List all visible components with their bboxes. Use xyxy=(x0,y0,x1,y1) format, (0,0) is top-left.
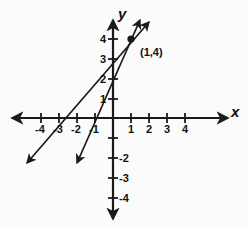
x-tick-label-neg4: -4 xyxy=(35,124,45,135)
y-tick-label-neg4: -4 xyxy=(119,193,129,204)
x-tick-label-3: 3 xyxy=(164,124,170,135)
y-axis-label: y xyxy=(118,6,126,21)
x-tick-label-2: 2 xyxy=(146,124,152,135)
point-coordinate-label: (1,4) xyxy=(140,47,163,58)
coordinate-plane-graph: x y -4 -3 -2 -1 1 2 3 4 4 3 2 1 -2 -3 -4… xyxy=(0,0,249,227)
x-axis-label: x xyxy=(231,104,239,119)
x-axis xyxy=(12,113,228,123)
y-tick-label-4: 4 xyxy=(100,34,106,45)
x-tick-label-neg1: -1 xyxy=(89,124,99,135)
y-tick-label-neg2: -2 xyxy=(119,153,129,164)
y-tick-label-3: 3 xyxy=(100,54,106,65)
x-tick-label-neg3: -3 xyxy=(53,124,63,135)
x-tick-label-4: 4 xyxy=(182,124,188,135)
y-tick-label-2: 2 xyxy=(100,74,106,85)
intersection-point-marker xyxy=(127,35,134,42)
x-tick-label-neg2: -2 xyxy=(71,124,81,135)
y-tick-label-1: 1 xyxy=(100,94,106,105)
x-tick-label-1: 1 xyxy=(128,124,134,135)
y-axis xyxy=(108,20,118,219)
y-tick-label-neg3: -3 xyxy=(119,173,129,184)
